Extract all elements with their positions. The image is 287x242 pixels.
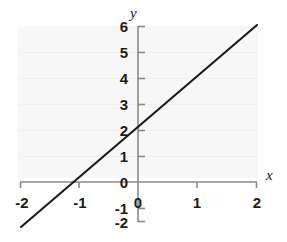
y-tick-label-3: 3: [104, 97, 128, 112]
y-tick-label-4: 4: [104, 71, 128, 86]
x-axis-label: x: [266, 168, 273, 183]
x-tick-label-neg1: -1: [66, 195, 94, 210]
y-tick-label-1: 1: [104, 149, 128, 164]
x-tick-label-0: 0: [131, 195, 145, 210]
y-tick-label-neg2: -2: [102, 215, 128, 230]
y-tick-label-0: 0: [104, 175, 128, 190]
y-tick-label-2: 2: [104, 123, 128, 138]
chart-figure: 6 5 4 3 2 1 0 -1 -2 -2 -1 0 1 2 y x: [0, 0, 287, 242]
x-tick-label-1: 1: [184, 195, 210, 210]
x-tick-label-2: 2: [244, 195, 270, 210]
y-tick-label-6: 6: [104, 19, 128, 34]
y-axis-label: y: [130, 6, 137, 21]
y-tick-label-5: 5: [104, 45, 128, 60]
x-tick-label-neg2: -2: [8, 195, 36, 210]
